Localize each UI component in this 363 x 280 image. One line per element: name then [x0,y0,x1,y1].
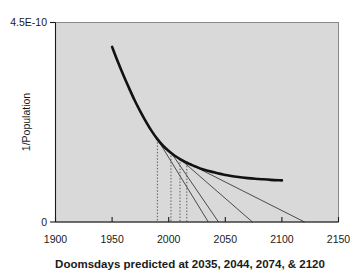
y-axis-bottom-value: 0 [41,216,47,228]
x-tick-label-2100: 2100 [270,233,294,245]
x-tick-label-1900: 1900 [44,233,68,245]
x-tick-label-2150: 2150 [327,233,351,245]
plot-area-background [56,23,339,223]
x-tick-label-2000: 2000 [157,233,181,245]
x-tick-label-1950: 1950 [100,233,124,245]
y-axis-top-value: 4.5E-10 [10,16,47,28]
chart-svg: 4.5E-10 0 1/Population 1900 1950 2000 20… [0,0,363,280]
x-tick-label-2050: 2050 [214,233,238,245]
x-axis-title: Doomsdays predicted at 2035, 2044, 2074,… [55,258,325,270]
y-axis-title: 1/Population [20,93,32,152]
chart-container: 4.5E-10 0 1/Population 1900 1950 2000 20… [0,0,363,280]
